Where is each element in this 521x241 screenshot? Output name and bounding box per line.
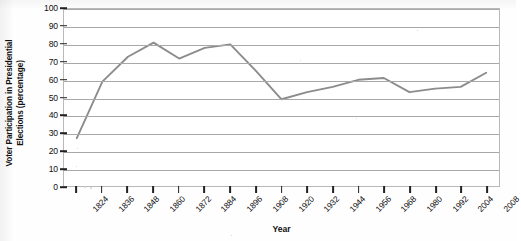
x-axis-tick-mark bbox=[358, 186, 360, 193]
x-axis-tick-label: 1860 bbox=[167, 194, 187, 214]
y-axis-title-line-1: Voter Participation in Presidential bbox=[4, 10, 15, 196]
x-axis-tick-label: 1884 bbox=[219, 194, 239, 214]
y-axis-tick-mark bbox=[60, 133, 67, 135]
gridline bbox=[64, 116, 499, 117]
gridline bbox=[64, 152, 499, 153]
x-axis-tick-mark bbox=[435, 186, 437, 193]
gridline bbox=[64, 81, 499, 82]
x-axis-tick-label: 1992 bbox=[450, 194, 470, 214]
scan-artifact bbox=[90, 187, 92, 189]
x-axis-tick-mark bbox=[409, 186, 411, 193]
x-axis-tick-mark bbox=[152, 186, 154, 193]
y-axis-tick-labels: 0102030405060708090100 bbox=[30, 8, 58, 187]
y-axis-tick-mark bbox=[60, 115, 67, 117]
gridline bbox=[64, 9, 499, 10]
x-axis-tick-label: 2004 bbox=[476, 194, 496, 214]
y-axis-tick-mark bbox=[60, 97, 67, 99]
x-axis-tick-mark bbox=[332, 186, 334, 193]
y-axis-title: Voter Participation in Presidential Elec… bbox=[4, 10, 26, 196]
data-line bbox=[77, 43, 486, 139]
scan-artifact bbox=[417, 30, 418, 31]
x-axis-tick-mark bbox=[306, 186, 308, 193]
gridline bbox=[64, 170, 499, 171]
scan-artifact bbox=[77, 148, 78, 149]
gridline bbox=[64, 45, 499, 46]
scan-artifact bbox=[300, 60, 301, 61]
y-axis-tick-mark bbox=[60, 61, 67, 63]
x-axis-tick-label: 1848 bbox=[142, 194, 162, 214]
x-axis-tick-label: 1944 bbox=[347, 194, 367, 214]
x-axis-tick-label: 1872 bbox=[193, 194, 213, 214]
x-axis-tick-mark bbox=[229, 186, 231, 193]
x-axis-tick-label: 1824 bbox=[90, 194, 110, 214]
y-axis-tick-label: 0 bbox=[30, 182, 58, 192]
gridline bbox=[64, 134, 499, 135]
line-series-svg bbox=[64, 9, 499, 186]
x-axis-tick-labels: 1824183618481860187218841896190819201932… bbox=[63, 194, 500, 224]
y-axis-tick-label: 90 bbox=[30, 21, 58, 31]
scan-artifact bbox=[76, 166, 77, 167]
y-axis-tick-mark bbox=[60, 150, 67, 152]
y-axis-title-line-2: Elections (percentage) bbox=[15, 10, 26, 196]
x-axis-tick-mark bbox=[461, 186, 463, 193]
y-axis-tick-label: 80 bbox=[30, 39, 58, 49]
scan-artifact bbox=[231, 235, 232, 236]
x-axis-tick-mark bbox=[178, 186, 180, 193]
x-axis-tick-mark bbox=[75, 186, 77, 193]
x-axis-tick-mark bbox=[126, 186, 128, 193]
x-axis-tick-label: 1908 bbox=[270, 194, 290, 214]
x-axis-tick-label: 1896 bbox=[244, 194, 264, 214]
scan-artifact bbox=[356, 118, 357, 119]
gridline bbox=[64, 27, 499, 28]
x-axis-tick-label: 1836 bbox=[116, 194, 136, 214]
x-axis-tick-label: 1980 bbox=[424, 194, 444, 214]
x-axis-tick-mark bbox=[281, 186, 283, 193]
gridline bbox=[64, 63, 499, 64]
y-axis-tick-mark bbox=[60, 168, 67, 170]
x-axis-tick-label: 1956 bbox=[373, 194, 393, 214]
x-axis-tick-label: 2008 bbox=[501, 194, 521, 214]
y-axis-tick-mark bbox=[60, 79, 67, 81]
x-axis-tick-mark bbox=[255, 186, 257, 193]
x-axis-title: Year bbox=[63, 224, 500, 234]
x-axis-tick-mark bbox=[383, 186, 385, 193]
plot-area bbox=[63, 8, 500, 187]
y-axis-tick-mark bbox=[60, 186, 67, 188]
y-axis-tick-mark bbox=[60, 43, 67, 45]
x-axis-tick-mark bbox=[101, 186, 103, 193]
gridline bbox=[64, 99, 499, 100]
x-axis-tick-label: 1920 bbox=[296, 194, 316, 214]
y-axis-tick-mark bbox=[60, 25, 67, 27]
y-axis-tick-label: 10 bbox=[30, 164, 58, 174]
y-axis-tick-label: 50 bbox=[30, 93, 58, 103]
y-axis-tick-label: 30 bbox=[30, 128, 58, 138]
x-axis-tick-mark bbox=[486, 186, 488, 193]
y-axis-tick-label: 70 bbox=[30, 57, 58, 67]
x-axis-tick-label: 1968 bbox=[399, 194, 419, 214]
x-axis-tick-mark bbox=[203, 186, 205, 193]
scan-artifact bbox=[84, 186, 86, 188]
y-axis-tick-label: 60 bbox=[30, 75, 58, 85]
y-axis-tick-label: 100 bbox=[30, 3, 58, 13]
y-axis-tick-label: 20 bbox=[30, 146, 58, 156]
x-axis-tick-label: 1932 bbox=[321, 194, 341, 214]
y-axis-tick-label: 40 bbox=[30, 110, 58, 120]
y-axis-tick-mark bbox=[60, 7, 67, 9]
